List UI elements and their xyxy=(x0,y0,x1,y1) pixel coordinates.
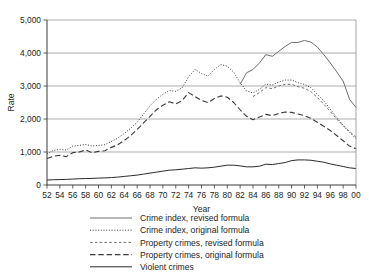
x-tick-label-76: 76 xyxy=(197,190,207,200)
x-tick-label-68: 68 xyxy=(145,190,155,200)
x-tick-label-96: 96 xyxy=(326,190,336,200)
x-tick-label-72: 72 xyxy=(171,190,181,200)
y-tick-label-3000: 3,000 xyxy=(20,81,41,91)
x-tick-label-74: 74 xyxy=(184,190,194,200)
crime-rate-line-chart: 01,0002,0003,0004,0005,00052545658606264… xyxy=(0,0,369,278)
y-tick-label-0: 0 xyxy=(36,180,41,190)
axes-group xyxy=(44,20,357,189)
x-tick-label-86: 86 xyxy=(261,190,271,200)
legend-label-4: Violent crimes xyxy=(140,262,194,272)
series-line-2 xyxy=(253,84,356,137)
series-line-0 xyxy=(240,40,356,107)
y-tick-label-2000: 2,000 xyxy=(20,114,41,124)
x-tick-label-64: 64 xyxy=(120,190,130,200)
x-tick-label-56: 56 xyxy=(68,190,78,200)
x-tick-label-98: 98 xyxy=(338,190,348,200)
axis-labels-group: 01,0002,0003,0004,0005,00052545658606264… xyxy=(6,15,361,214)
y-tick-label-4000: 4,000 xyxy=(20,48,41,58)
x-tick-label-88: 88 xyxy=(274,190,284,200)
series-group xyxy=(47,40,356,180)
x-tick-label-66: 66 xyxy=(132,190,142,200)
x-tick-label-54: 54 xyxy=(55,190,65,200)
y-tick-label-1000: 1,000 xyxy=(20,147,41,157)
series-line-3 xyxy=(47,93,356,159)
x-tick-label-00: 00 xyxy=(351,190,361,200)
x-tick-label-82: 82 xyxy=(235,190,245,200)
x-tick-label-84: 84 xyxy=(248,190,258,200)
x-tick-label-52: 52 xyxy=(42,190,52,200)
x-tick-label-78: 78 xyxy=(210,190,220,200)
legend-label-2: Property crimes, revised formula xyxy=(140,238,264,248)
x-tick-label-60: 60 xyxy=(94,190,104,200)
legend-label-1: Crime index, original formula xyxy=(140,225,250,235)
legend-label-0: Crime index, revised formula xyxy=(140,213,250,223)
legend-label-3: Property crimes, original formula xyxy=(140,250,264,260)
x-tick-label-90: 90 xyxy=(287,190,297,200)
x-tick-label-94: 94 xyxy=(313,190,323,200)
x-tick-label-62: 62 xyxy=(107,190,117,200)
x-tick-label-80: 80 xyxy=(223,190,233,200)
series-line-4 xyxy=(47,160,356,180)
y-tick-label-5000: 5,000 xyxy=(20,15,41,25)
gridlines-group xyxy=(47,20,356,152)
legend: Crime index, revised formulaCrime index,… xyxy=(90,213,264,272)
series-line-1 xyxy=(47,65,356,154)
x-tick-label-92: 92 xyxy=(300,190,310,200)
x-tick-label-58: 58 xyxy=(81,190,91,200)
chart-figure: 01,0002,0003,0004,0005,00052545658606264… xyxy=(0,0,369,278)
y-axis-title: Rate xyxy=(6,93,16,111)
x-tick-label-70: 70 xyxy=(158,190,168,200)
